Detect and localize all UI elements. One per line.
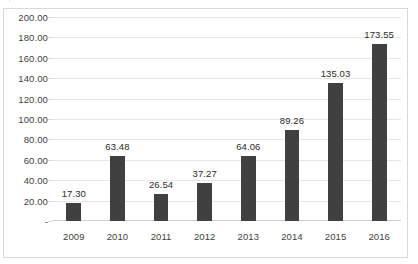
x-tick-label: 2012 — [183, 231, 227, 242]
y-tick-label: 180.00 — [18, 32, 48, 43]
x-tick-label: 2010 — [96, 231, 140, 242]
x-tick-label: 2014 — [270, 231, 314, 242]
bar-value-label: 173.55 — [364, 29, 394, 40]
y-tick-label: 40.00 — [24, 175, 48, 186]
bar[interactable]: 64.06 — [241, 156, 256, 221]
bar-value-label: 37.27 — [193, 168, 217, 179]
x-tick-label: 2016 — [357, 231, 401, 242]
y-tick-mark — [48, 221, 52, 222]
bar-value-label: 26.54 — [149, 179, 173, 190]
bar[interactable]: 17.30 — [66, 203, 81, 221]
bar-slot: 64.06 — [227, 17, 271, 221]
bar[interactable]: 26.54 — [154, 194, 169, 221]
bar-value-label: 89.26 — [280, 115, 304, 126]
x-tick-label: 2013 — [227, 231, 271, 242]
y-tick-label: 20.00 — [24, 195, 48, 206]
bar-value-label: 64.06 — [236, 141, 260, 152]
x-tick-label: 2015 — [314, 231, 358, 242]
bar[interactable]: 135.03 — [328, 83, 343, 221]
y-tick-label: 60.00 — [24, 154, 48, 165]
y-axis: 200.00180.00160.00140.00120.00100.0080.0… — [4, 9, 52, 257]
bar-value-label: 17.30 — [62, 188, 86, 199]
x-tick-label: 2011 — [139, 231, 183, 242]
chart-frame: 200.00180.00160.00140.00120.00100.0080.0… — [3, 8, 408, 258]
bar-slot: 89.26 — [270, 17, 314, 221]
y-tick-label: 120.00 — [18, 93, 48, 104]
bar[interactable]: 63.48 — [110, 156, 125, 221]
x-axis: 20092010201120122013201420152016 — [52, 225, 401, 247]
y-tick-label: 100.00 — [18, 114, 48, 125]
clipped-caption-text: · ı · ·· — [3, 0, 25, 4]
bar-value-label: 135.03 — [321, 68, 351, 79]
bar[interactable]: 89.26 — [285, 130, 300, 221]
bar-slot: 173.55 — [357, 17, 401, 221]
bar-slot: 26.54 — [139, 17, 183, 221]
bar-slot: 37.27 — [183, 17, 227, 221]
x-tick-label: 2009 — [52, 231, 96, 242]
bar-slot: 17.30 — [52, 17, 96, 221]
y-tick-label: 140.00 — [18, 73, 48, 84]
y-tick-label: 160.00 — [18, 52, 48, 63]
plot-area: 17.3063.4826.5437.2764.0689.26135.03173.… — [52, 17, 401, 221]
y-tick-label: 80.00 — [24, 134, 48, 145]
bar-slot: 63.48 — [96, 17, 140, 221]
bar-slot: 135.03 — [314, 17, 358, 221]
bar[interactable]: 37.27 — [197, 183, 212, 221]
bar-series: 17.3063.4826.5437.2764.0689.26135.03173.… — [52, 17, 401, 221]
y-tick-label: 200.00 — [18, 12, 48, 23]
bar[interactable]: 173.55 — [372, 44, 387, 221]
plot-region: 200.00180.00160.00140.00120.00100.0080.0… — [4, 9, 407, 257]
bar-value-label: 63.48 — [105, 141, 129, 152]
